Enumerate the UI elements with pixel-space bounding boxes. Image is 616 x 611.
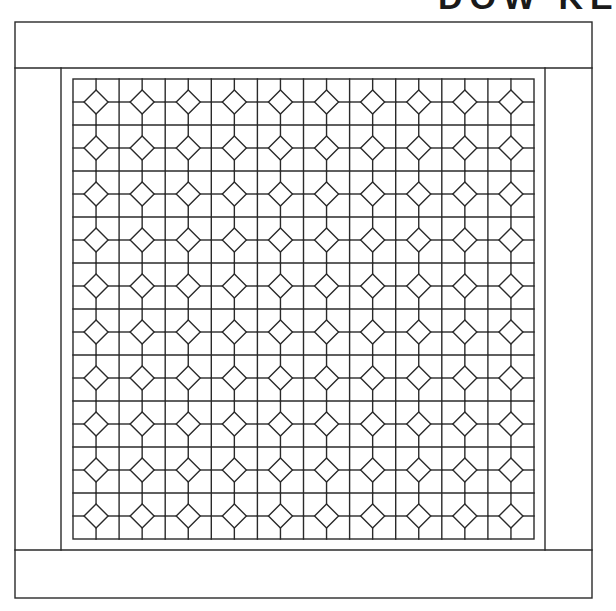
diamond-shape <box>176 366 200 390</box>
diamond-shape <box>453 412 477 436</box>
quilt-block <box>257 125 303 171</box>
quilt-block <box>304 309 350 355</box>
quilt-block <box>211 217 257 263</box>
quilt-block <box>119 355 165 401</box>
diamond-shape <box>130 366 154 390</box>
quilt-block <box>304 447 350 493</box>
quilt-block <box>350 355 396 401</box>
quilt-block <box>304 171 350 217</box>
quilt-block <box>304 125 350 171</box>
quilt-block <box>257 493 303 539</box>
diamond-shape <box>453 274 477 298</box>
quilt-block <box>396 447 442 493</box>
diamond-shape <box>268 458 292 482</box>
quilt-block <box>119 447 165 493</box>
diamond-shape <box>499 412 523 436</box>
quilt-block <box>396 263 442 309</box>
quilt-block <box>165 125 211 171</box>
quilt-block <box>211 309 257 355</box>
quilt-block <box>488 125 534 171</box>
quilt-block <box>442 309 488 355</box>
diamond-shape <box>222 90 246 114</box>
quilt-block <box>304 263 350 309</box>
quilt-block <box>350 217 396 263</box>
quilt-block <box>165 217 211 263</box>
quilt-block <box>165 355 211 401</box>
quilt-block <box>442 355 488 401</box>
diamond-shape <box>499 274 523 298</box>
diamond-shape <box>84 182 108 206</box>
diamond-shape <box>268 228 292 252</box>
quilt-block <box>488 171 534 217</box>
diamond-shape <box>499 228 523 252</box>
diamond-shape <box>176 90 200 114</box>
diamond-shape <box>361 182 385 206</box>
diamond-shape <box>361 412 385 436</box>
diamond-shape <box>130 274 154 298</box>
diamond-shape <box>453 458 477 482</box>
diamond-shape <box>268 182 292 206</box>
diamond-shape <box>361 274 385 298</box>
diamond-shape <box>176 274 200 298</box>
diamond-shape <box>499 136 523 160</box>
diamond-shape <box>361 136 385 160</box>
diamond-shape <box>315 136 339 160</box>
quilt-block <box>442 125 488 171</box>
diamond-shape <box>268 320 292 344</box>
diamond-shape <box>499 366 523 390</box>
diamond-shape <box>84 274 108 298</box>
diamond-shape <box>268 274 292 298</box>
quilt-block <box>257 171 303 217</box>
quilt-block <box>165 171 211 217</box>
quilt-block <box>257 309 303 355</box>
quilt-block <box>73 493 119 539</box>
quilt-block <box>488 309 534 355</box>
diamond-shape <box>315 228 339 252</box>
quilt-block <box>350 493 396 539</box>
diamond-shape <box>315 504 339 528</box>
quilt-block <box>304 217 350 263</box>
quilt-block <box>73 309 119 355</box>
quilt-block <box>211 171 257 217</box>
quilt-block <box>304 401 350 447</box>
quilt-block <box>257 217 303 263</box>
quilt-block <box>257 263 303 309</box>
diamond-shape <box>84 90 108 114</box>
quilt-block <box>73 263 119 309</box>
quilt-block <box>119 171 165 217</box>
quilt-block <box>350 79 396 125</box>
diamond-shape <box>176 504 200 528</box>
quilt-block <box>211 125 257 171</box>
quilt-block <box>257 355 303 401</box>
diamond-shape <box>84 366 108 390</box>
diamond-shape <box>407 228 431 252</box>
diamond-shape <box>453 320 477 344</box>
diamond-shape <box>130 182 154 206</box>
diamond-shape <box>84 320 108 344</box>
quilt-block <box>396 493 442 539</box>
diamond-shape <box>268 90 292 114</box>
diamond-shape <box>361 90 385 114</box>
quilt-block <box>73 401 119 447</box>
quilt-block <box>73 447 119 493</box>
quilt-block <box>396 401 442 447</box>
diamond-shape <box>222 366 246 390</box>
diamond-shape <box>407 504 431 528</box>
diamond-shape <box>453 504 477 528</box>
quilt-block <box>488 447 534 493</box>
diamond-shape <box>222 412 246 436</box>
quilt-block <box>304 79 350 125</box>
diamond-shape <box>315 90 339 114</box>
diamond-shape <box>407 366 431 390</box>
diamond-shape <box>84 412 108 436</box>
quilt-block <box>211 79 257 125</box>
quilt-block <box>165 79 211 125</box>
quilt-block <box>488 493 534 539</box>
quilt-block <box>119 263 165 309</box>
diamond-shape <box>499 504 523 528</box>
diamond-shape <box>361 320 385 344</box>
diamond-shape <box>176 136 200 160</box>
quilt-block <box>119 79 165 125</box>
quilt-block <box>119 493 165 539</box>
diamond-shape <box>407 90 431 114</box>
